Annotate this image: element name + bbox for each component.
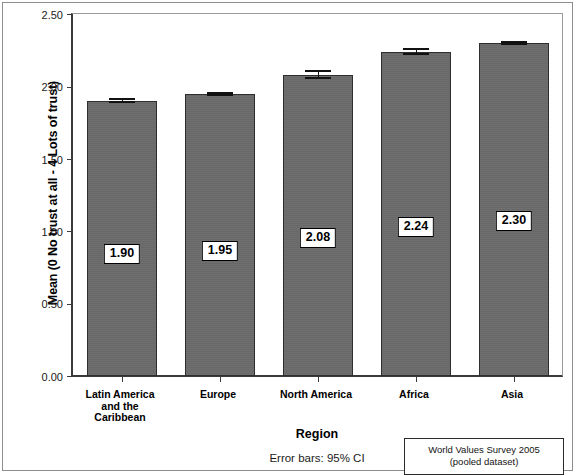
y-axis-tick-label: 2.00 (42, 81, 67, 93)
bar-value-label: 2.08 (300, 228, 336, 248)
x-axis-tick-mark (220, 375, 221, 382)
x-axis-tick-mark (122, 375, 123, 382)
chart-figure: Mean (0 No trust at all - 4 Lots of trus… (0, 0, 577, 476)
bar-texture (186, 95, 254, 375)
bar-texture (284, 76, 352, 375)
x-axis-tick-mark (318, 375, 319, 382)
y-axis-tick-mark (67, 159, 73, 160)
x-axis-category-label: Latin America and the Caribbean (64, 389, 176, 424)
bar (381, 52, 451, 376)
y-axis-tick: 0.00 (42, 367, 73, 385)
error-bar-cap-bottom (207, 94, 233, 96)
y-axis-tick-label: 0.50 (42, 298, 67, 310)
y-axis-tick-mark (67, 376, 73, 377)
y-axis-tick-label: 1.00 (42, 226, 67, 238)
error-bar-cap-bottom (305, 77, 331, 79)
y-axis-tick: 1.00 (42, 222, 73, 240)
bar (87, 101, 157, 376)
y-axis-tick-label: 0.00 (42, 371, 67, 383)
bar-value-label: 2.30 (496, 211, 532, 231)
y-axis-tick-label: 1.50 (42, 154, 67, 166)
bar-texture (88, 102, 156, 375)
x-axis-category-label: Africa (358, 389, 470, 401)
source-line-1: World Values Survey 2005 (409, 444, 559, 456)
bar-texture (382, 53, 450, 375)
error-bar-cap-bottom (403, 53, 429, 55)
bar-value-label: 1.95 (202, 241, 238, 261)
y-axis-tick: 2.00 (42, 77, 73, 95)
bar (479, 43, 549, 376)
bar (283, 75, 353, 376)
bar-value-label: 2.24 (398, 217, 434, 237)
source-line-2: (pooled dataset) (409, 456, 559, 468)
error-bar (501, 41, 527, 45)
y-axis-tick-mark (67, 304, 73, 305)
bar-texture (480, 44, 548, 375)
y-axis-title: Mean (0 No trust at all - 4 Lots of trus… (46, 8, 60, 378)
y-axis-tick-mark (67, 231, 73, 232)
y-axis-tick-mark (67, 87, 73, 88)
bar-value-label: 1.90 (104, 244, 140, 264)
error-bar (109, 98, 135, 103)
plot-inner: 0.000.501.001.502.002.50 1.901.952.082.2… (73, 14, 562, 375)
x-axis-tick-mark (514, 375, 515, 382)
y-axis-tick: 1.50 (42, 150, 73, 168)
error-bar (305, 70, 331, 79)
x-axis-tick-mark (416, 375, 417, 382)
error-bar (403, 48, 429, 54)
x-axis-category-label: North America (260, 389, 372, 401)
plot-area: 0.000.501.001.502.002.50 1.901.952.082.2… (71, 13, 563, 377)
y-axis-tick: 2.50 (42, 5, 73, 23)
y-axis-tick-label: 2.50 (42, 9, 67, 21)
error-bar (207, 92, 233, 96)
source-annotation-box: World Values Survey 2005 (pooled dataset… (404, 438, 564, 475)
error-bar-cap-bottom (501, 43, 527, 45)
y-axis-tick: 0.50 (42, 295, 73, 313)
y-axis-tick-mark (67, 14, 73, 15)
bar (185, 94, 255, 376)
x-axis-category-label: Asia (456, 389, 568, 401)
x-axis-category-label: Europe (162, 389, 274, 401)
error-bar-cap-bottom (109, 101, 135, 103)
